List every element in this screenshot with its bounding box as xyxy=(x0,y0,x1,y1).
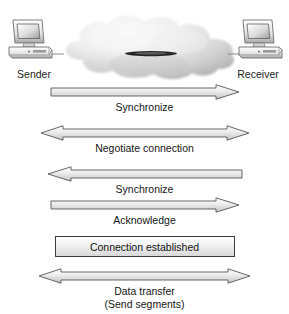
connection-established-row: Connection established xyxy=(0,236,289,257)
data-transfer-row: Data transfer (Send segments) xyxy=(0,268,289,310)
desktop-computer-icon xyxy=(4,17,64,63)
arrow-right-icon xyxy=(50,84,240,100)
step-synchronize-2: Synchronize xyxy=(0,166,289,196)
sender-label: Sender xyxy=(4,68,64,80)
step-label: Synchronize xyxy=(0,183,289,196)
data-transfer-label-line1: Data transfer xyxy=(0,285,289,297)
step-label: Negotiate connection xyxy=(0,142,289,155)
arrow-left-right-icon xyxy=(40,125,250,141)
step-label: Acknowledge xyxy=(0,214,289,227)
step-negotiate-connection: Negotiate connection xyxy=(0,125,289,155)
step-label: Synchronize xyxy=(0,101,289,114)
arrow-left-icon xyxy=(47,166,243,182)
arrow-left-right-icon xyxy=(38,268,251,284)
connection-established-label: Connection established xyxy=(56,241,234,253)
desktop-computer-icon xyxy=(228,17,288,63)
sender-endpoint: Sender xyxy=(4,17,64,80)
network-cloud-icon xyxy=(50,12,242,82)
tcp-handshake-diagram: Sender xyxy=(0,0,289,314)
step-synchronize-1: Synchronize xyxy=(0,84,289,114)
arrow-right-icon xyxy=(50,197,240,213)
receiver-label: Receiver xyxy=(228,68,288,80)
receiver-endpoint: Receiver xyxy=(228,17,288,80)
data-transfer-label-line2: (Send segments) xyxy=(0,298,289,310)
connection-established-box: Connection established xyxy=(55,236,235,257)
step-acknowledge: Acknowledge xyxy=(0,197,289,227)
